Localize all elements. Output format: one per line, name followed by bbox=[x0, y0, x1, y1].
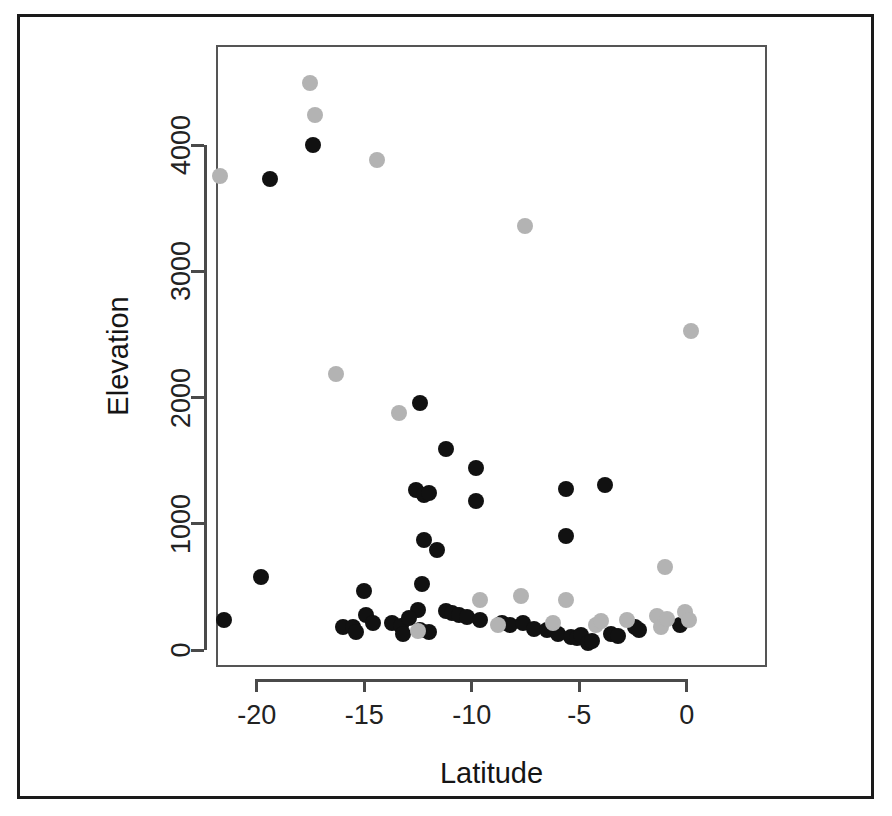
x-axis-tick-label: -5 bbox=[539, 700, 619, 731]
y-axis-tick-label: 2000 bbox=[164, 343, 198, 453]
y-axis-line bbox=[204, 145, 207, 650]
plot-panel bbox=[216, 45, 767, 667]
figure-root: -20-15-10-5001000200030004000 Elevation … bbox=[0, 0, 892, 816]
x-axis-title: Latitude bbox=[116, 757, 867, 790]
x-axis-tick-label: 0 bbox=[647, 700, 727, 731]
x-axis-tick bbox=[255, 679, 258, 692]
x-axis-tick-label: -10 bbox=[432, 700, 512, 731]
y-axis-tick-label: 0 bbox=[164, 595, 198, 705]
y-axis-title: Elevation bbox=[101, 206, 135, 506]
x-axis-tick-label: -20 bbox=[217, 700, 297, 731]
y-axis-tick-label: 4000 bbox=[164, 90, 198, 200]
x-axis-tick bbox=[578, 679, 581, 692]
x-axis-tick bbox=[685, 679, 688, 692]
x-axis-tick bbox=[470, 679, 473, 692]
y-axis-tick-label: 1000 bbox=[164, 469, 198, 579]
y-axis-tick-label: 3000 bbox=[164, 216, 198, 326]
x-axis-tick bbox=[363, 679, 366, 692]
x-axis-tick-label: -15 bbox=[324, 700, 404, 731]
